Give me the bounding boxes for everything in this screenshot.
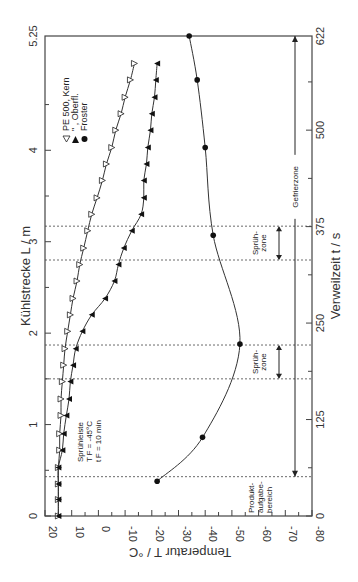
length-tick-label: 5.25	[27, 25, 39, 46]
series-line-2	[157, 36, 240, 481]
time-tick-label: 0	[314, 513, 326, 519]
open-triangle-marker	[89, 211, 95, 217]
temp-tick-label: 20	[47, 526, 59, 538]
temp-tick-label: -30	[181, 526, 193, 542]
chart: 20100-10-20-30-40-50-60-70-80012345.2501…	[0, 0, 358, 582]
temp-tick-label: -40	[207, 526, 219, 542]
annotation-temp: T F = -45°C	[85, 421, 94, 462]
gefrierzone-arrowhead-top	[292, 36, 298, 42]
temp-axis-title: Temperatur T / °C	[129, 545, 231, 560]
filled-triangle-marker	[89, 312, 95, 318]
temp-tick-label: 10	[74, 526, 86, 538]
filled-circle-marker	[202, 145, 208, 151]
legend-filled-triangle-icon	[72, 136, 79, 143]
filled-triangle-marker	[129, 228, 135, 234]
spruehzone-2-label-2: zone	[259, 234, 268, 252]
length-axis-title: Kühlstrecke L / m	[18, 226, 33, 326]
open-triangle-marker	[99, 177, 105, 183]
temp-tick-label: -50	[234, 526, 246, 542]
temp-tick-label: -70	[287, 526, 299, 542]
gefrierzone-label: Gefrierzone	[291, 165, 300, 207]
filled-circle-marker	[186, 33, 192, 39]
open-triangle-marker	[94, 195, 100, 201]
time-tick-label: 250	[314, 314, 326, 332]
time-axis-title: Verweilzeit t / s	[328, 232, 343, 319]
length-tick-label: 1	[27, 422, 39, 428]
filled-circle-marker	[200, 435, 206, 441]
open-triangle-marker	[127, 77, 133, 83]
open-triangle-marker	[113, 127, 119, 133]
filled-circle-marker	[194, 77, 200, 83]
legend-filled-circle-icon	[82, 136, 88, 142]
filled-triangle-marker	[138, 211, 144, 217]
open-triangle-marker	[118, 111, 124, 117]
length-tick-label: 0	[27, 513, 39, 519]
open-triangle-marker	[109, 145, 115, 151]
legend-label-froster: Froster	[79, 102, 89, 131]
annotation-spruehleiste: Sprühleiste	[76, 421, 85, 462]
open-triangle-marker	[122, 94, 128, 100]
filled-triangle-marker	[115, 262, 121, 268]
produkt-label-1: Produkt-	[247, 482, 256, 513]
spruehzone-1-arrowhead-top	[276, 345, 282, 350]
annotation-time: t F = 10 min	[94, 420, 103, 462]
legend-open-triangle-icon	[63, 136, 70, 142]
filled-triangle-marker	[121, 245, 127, 251]
time-tick-label: 125	[314, 410, 326, 428]
produkt-label-3: bereich	[265, 487, 274, 513]
plot-area: 20100-10-20-30-40-50-60-70-80012345.2501…	[18, 25, 343, 560]
spruehzone-1-arrowhead-bottom	[276, 374, 282, 379]
spruehzone-2-arrowhead-bottom	[276, 255, 282, 260]
filled-circle-marker	[237, 341, 243, 347]
produkt-label-2: aufgabe-	[256, 481, 265, 513]
filled-circle-marker	[154, 478, 160, 484]
time-tick-label: 622	[314, 27, 326, 45]
filled-triangle-marker	[111, 278, 117, 284]
length-tick-label: 4	[27, 147, 39, 153]
gefrierzone-arrowhead-bottom	[292, 471, 298, 477]
time-tick-label: 500	[314, 121, 326, 139]
temp-tick-label: 0	[100, 526, 112, 532]
open-triangle-marker	[103, 161, 109, 167]
filled-circle-marker	[210, 233, 216, 239]
temp-tick-label: -60	[261, 526, 273, 542]
spruehzone-1-label-2: zone	[259, 353, 268, 371]
spruehzone-2-arrowhead-top	[276, 226, 282, 231]
filled-triangle-marker	[79, 328, 85, 334]
temp-tick-label: -80	[314, 526, 326, 542]
temp-tick-label: -10	[127, 526, 139, 542]
length-tick-label: 2	[27, 330, 39, 336]
time-tick-label: 375	[314, 217, 326, 235]
temp-tick-label: -20	[154, 526, 166, 542]
